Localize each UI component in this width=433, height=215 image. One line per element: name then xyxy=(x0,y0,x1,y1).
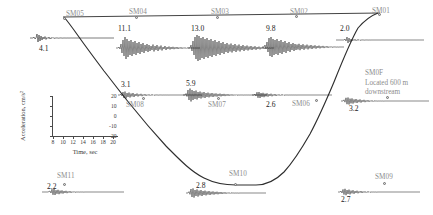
sm0f-note-line2: downstream xyxy=(365,88,400,98)
pga-value-sm07: 5.9 xyxy=(186,79,196,88)
y-tick-label: -10 xyxy=(95,123,121,129)
pga-value-sm01: 2.0 xyxy=(340,24,350,33)
pga-value-sm04: 11.1 xyxy=(118,24,131,33)
station-label-sm02: SM02 xyxy=(290,8,308,16)
station-label-sm06: SM06 xyxy=(292,100,310,108)
pga-value-sm11: 2.2 xyxy=(47,182,57,191)
y-axis-title: Acceleration, cm/s² xyxy=(19,91,26,141)
y-tick-label: 10 xyxy=(95,103,121,109)
y-tick-label: 0 xyxy=(95,113,121,119)
station-label-sm09: SM09 xyxy=(375,173,393,181)
x-tick-label: 14 xyxy=(80,139,86,145)
y-tick-mark xyxy=(50,106,53,107)
x-tick-label: 12 xyxy=(70,139,76,145)
y-tick-mark xyxy=(50,96,53,97)
station-label-sm07: SM07 xyxy=(208,101,226,109)
y-tick-mark xyxy=(50,136,53,137)
x-tick-label: 10 xyxy=(60,139,66,145)
x-tick-label: 8 xyxy=(52,139,55,145)
x-axis-title: Time, sec xyxy=(73,148,98,155)
inset-axis: 20 10 0 -10 -20 8 10 12 14 16 18 20 Acce… xyxy=(28,96,120,146)
sm0f-note-line1: Located 600 m xyxy=(365,79,408,89)
y-tick-label: 20 xyxy=(95,93,121,99)
pga-value-sm02: 9.8 xyxy=(266,24,276,33)
x-tick-label: 20 xyxy=(110,139,116,145)
station-label-sm10: SM10 xyxy=(229,170,247,178)
station-label-sm04: SM04 xyxy=(129,8,147,16)
pga-value-sm08: 3.1 xyxy=(121,80,131,89)
pga-value-sm03: 13.0 xyxy=(191,24,204,33)
figure-root: SM05 4.1 SM04 11.1 SM03 13.0 SM02 9.8 SM… xyxy=(0,0,433,215)
station-label-sm11: SM11 xyxy=(57,172,75,180)
station-label-sm05: SM05 xyxy=(66,10,84,18)
pga-value-sm10: 2.8 xyxy=(196,181,206,190)
pga-value-sm09: 2.7 xyxy=(341,195,351,204)
pga-value-sm06: 2.6 xyxy=(266,100,276,109)
sm0f-note-label: SM0F xyxy=(365,69,383,79)
x-tick-label: 18 xyxy=(100,139,106,145)
y-tick-mark xyxy=(50,126,53,127)
station-label-sm03: SM03 xyxy=(211,8,229,16)
y-tick-mark xyxy=(50,116,53,117)
pga-value-sm05: 4.1 xyxy=(39,44,49,53)
station-label-sm08: SM08 xyxy=(126,101,144,109)
pga-value-sm0f: 3.2 xyxy=(349,104,359,113)
x-tick-label: 16 xyxy=(90,139,96,145)
